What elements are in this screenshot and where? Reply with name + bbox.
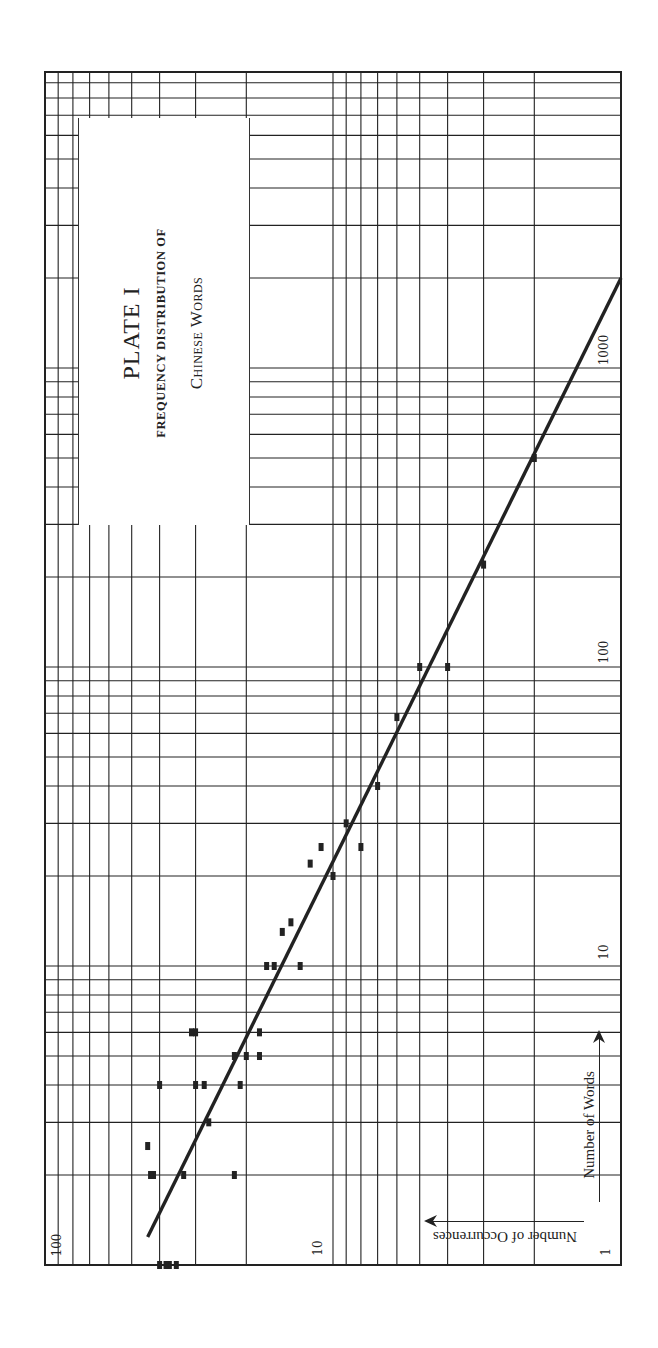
- data-point-marker: [157, 1261, 162, 1269]
- data-point-marker: [206, 1118, 211, 1126]
- data-point-marker: [174, 1261, 179, 1269]
- data-point-marker: [257, 1028, 262, 1036]
- data-point-marker: [189, 1028, 194, 1036]
- data-point-marker: [375, 782, 380, 790]
- data-point-marker: [145, 1142, 150, 1150]
- x-axis-title: Number of Occurrences: [433, 1228, 577, 1245]
- data-point-marker: [148, 1171, 153, 1179]
- data-point-marker: [181, 1171, 186, 1179]
- data-point-marker: [244, 1052, 249, 1060]
- data-point-marker: [481, 561, 486, 569]
- x-tick-1: 1: [599, 1248, 613, 1256]
- data-point-marker: [308, 860, 313, 868]
- y-axis-arrow-line: [599, 1036, 600, 1202]
- chart-plate: PLATE I FREQUENCY DISTRIBUTION OF Chines…: [0, 0, 658, 1348]
- data-point-marker: [280, 928, 285, 936]
- arrow-left-icon: [424, 1215, 438, 1227]
- data-point-marker: [298, 962, 303, 970]
- x-axis-arrow-line: [432, 1221, 584, 1222]
- data-point-marker: [532, 454, 537, 462]
- data-point-marker: [288, 918, 293, 926]
- data-point-marker: [257, 1052, 262, 1060]
- data-point-marker: [157, 1081, 162, 1089]
- y-tick-100: 100: [597, 641, 611, 664]
- data-point-marker: [272, 962, 277, 970]
- data-point-marker: [445, 663, 450, 671]
- data-points: [145, 454, 537, 1269]
- data-point-marker: [232, 1171, 237, 1179]
- y-axis-title: Number of Words: [581, 1071, 598, 1179]
- arrow-up-icon: [593, 1030, 605, 1044]
- data-point-marker: [417, 663, 422, 671]
- data-point-marker: [238, 1081, 243, 1089]
- data-point-marker: [193, 1081, 198, 1089]
- data-point-marker: [164, 1261, 169, 1269]
- y-tick-10: 10: [597, 944, 611, 959]
- plate-subtitle-line2: Chinese Words: [187, 277, 207, 390]
- plate-subtitle-line1: FREQUENCY DISTRIBUTION OF: [154, 228, 169, 438]
- plate-title: PLATE I: [118, 287, 145, 380]
- x-tick-10: 10: [311, 1240, 325, 1255]
- data-point-marker: [264, 962, 269, 970]
- data-point-marker: [344, 819, 349, 827]
- data-point-marker: [202, 1081, 207, 1089]
- data-point-marker: [319, 843, 324, 851]
- data-point-marker: [232, 1052, 237, 1060]
- y-tick-1000: 1000: [597, 335, 611, 366]
- title-box: PLATE I FREQUENCY DISTRIBUTION OF Chines…: [78, 118, 250, 525]
- x-tick-100: 100: [50, 1234, 64, 1257]
- data-point-marker: [331, 872, 336, 880]
- data-point-marker: [394, 713, 399, 721]
- data-point-marker: [358, 843, 363, 851]
